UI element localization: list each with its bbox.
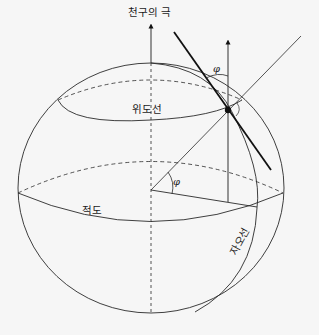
angle-arc-observer [206, 74, 228, 78]
celestial-sphere-diagram: 천구의 극 위도선 적도 자오선 φ φ [0, 0, 319, 335]
horizon-line [174, 32, 271, 170]
radius-to-equator [151, 190, 257, 207]
equator-front [18, 193, 283, 222]
observer-point [225, 107, 231, 113]
equator-back [18, 162, 283, 194]
phi-center-label: φ [173, 177, 180, 187]
equator-label: 적도 [82, 205, 102, 216]
angle-arc-small [236, 103, 239, 116]
diagram-canvas [0, 0, 319, 335]
latitude-line-label: 위도선 [132, 104, 162, 115]
radial-line [151, 36, 301, 190]
celestial-pole-label: 천구의 극 [128, 7, 171, 18]
phi-observer-label: φ [213, 64, 220, 74]
